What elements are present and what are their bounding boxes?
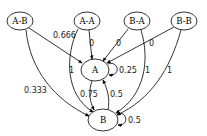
- node-a-a: A-A: [74, 12, 100, 30]
- edge-label-ba-a: 0: [116, 39, 121, 48]
- svg-text:A: A: [91, 65, 99, 75]
- edge-label-bb-b: 1: [167, 66, 172, 75]
- svg-text:A-B: A-B: [11, 16, 27, 26]
- edge-label-ba-b: 1: [145, 66, 150, 75]
- edge-b-b-self: 0.5: [117, 113, 141, 125]
- edge-b-a: 0.5: [103, 80, 123, 110]
- edge-label-b-a: 0.5: [110, 90, 123, 99]
- edge-ab-b: 0.333: [24, 30, 89, 116]
- edge-label-ab-a: 0.666: [53, 31, 76, 40]
- edge-aa-a: 0: [89, 30, 94, 59]
- edge-a-b: 0.75: [80, 81, 98, 110]
- edge-label-a-a: 0.25: [119, 66, 137, 75]
- edge-a-a-self: 0.25: [108, 63, 137, 75]
- svg-text:A-A: A-A: [78, 16, 95, 26]
- edge-label-ab-b: 0.333: [24, 86, 47, 95]
- node-b-b: B-B: [171, 12, 197, 30]
- edge-label-a-b: 0.75: [80, 90, 98, 99]
- svg-text:B-B: B-B: [176, 16, 192, 26]
- edge-label-aa-b: 1: [69, 66, 74, 75]
- node-a: A: [81, 59, 109, 81]
- edge-label-bb-a: 0: [149, 39, 154, 48]
- node-b-a: B-A: [124, 12, 150, 30]
- edge-ba-a: 0: [103, 29, 128, 61]
- node-a-b: A-B: [7, 12, 33, 30]
- edge-label-aa-a: 0: [89, 39, 94, 48]
- edge-ab-a: 0.666: [29, 28, 82, 63]
- state-transition-diagram: 0.666 0.333 0 1 0 1 0 1 0.25 0.75 0.5: [0, 0, 207, 136]
- svg-text:B: B: [100, 115, 106, 125]
- svg-text:B-A: B-A: [129, 16, 145, 26]
- edge-label-b-b: 0.5: [128, 116, 141, 125]
- node-b: B: [88, 109, 118, 131]
